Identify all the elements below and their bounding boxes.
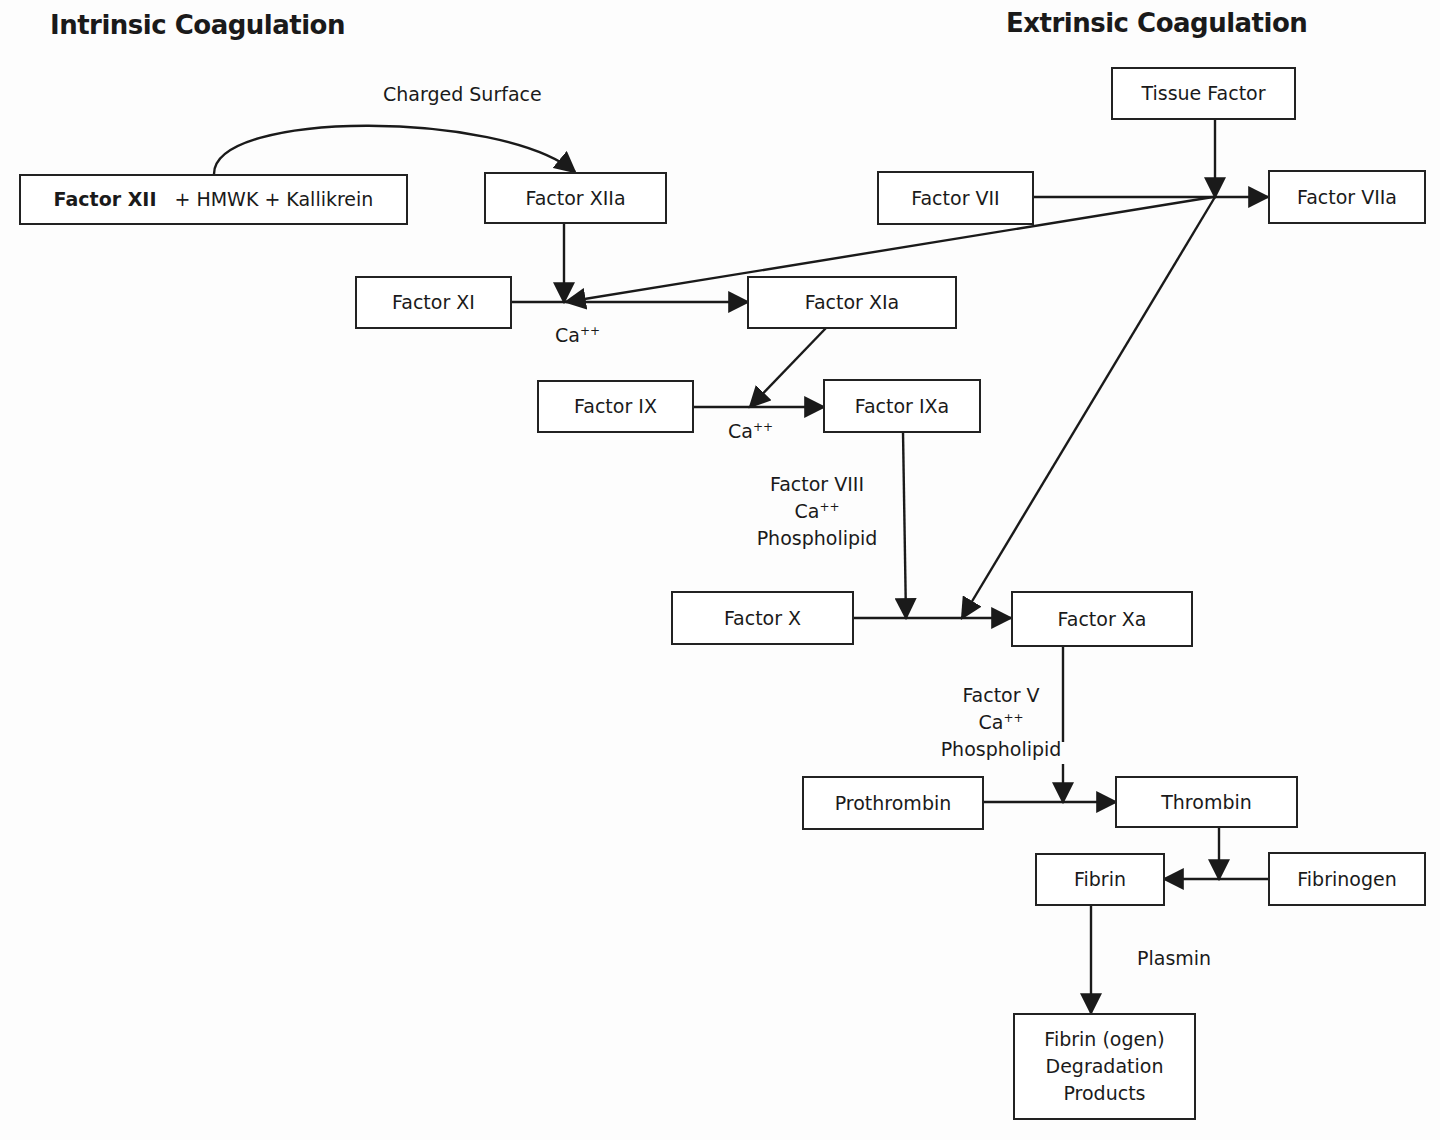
node-factor-ix: Factor IX [537,380,694,433]
arrow-xii-to-xiia [214,126,575,174]
factor-xii-cofactors-text: + HMWK + Kallikrein [174,186,373,213]
cofactors-label-prothrombin: Factor V Ca++ Phospholipid [936,682,1066,763]
edge-layer [0,0,1440,1140]
node-factor-xia: Factor XIa [747,276,957,329]
node-tissue-factor: Tissue Factor [1111,67,1296,120]
arrow-ixa-to-x-reaction [903,432,906,618]
cofactors-label-factor-x: Factor VIII Ca++ Phospholipid [752,471,882,552]
node-fibrinogen: Fibrinogen [1268,852,1426,906]
arrow-viia-to-x-reaction [962,197,1215,618]
node-factor-xa: Factor Xa [1011,591,1193,647]
intrinsic-title: Intrinsic Coagulation [50,10,345,40]
arrow-xia-to-ix-reaction [750,328,826,407]
ca-label-ix: Ca++ [728,418,773,445]
node-factor-viia: Factor VIIa [1268,170,1426,224]
charged-surface-label: Charged Surface [383,81,542,108]
node-fibrin: Fibrin [1035,853,1165,906]
node-factor-xi: Factor XI [355,276,512,329]
node-factor-x: Factor X [671,591,854,645]
node-factor-vii: Factor VII [877,171,1034,225]
node-factor-ixa: Factor IXa [823,379,981,433]
factor-xii-text: Factor XII [54,186,157,213]
node-factor-xii: Factor XII + HMWK + Kallikrein [19,174,408,225]
plasmin-label: Plasmin [1137,945,1211,972]
node-factor-xiia: Factor XIIa [484,172,667,224]
extrinsic-title: Extrinsic Coagulation [1006,8,1307,38]
node-thrombin: Thrombin [1115,776,1298,828]
ca-label-xi: Ca++ [555,322,600,349]
node-fibrin-degradation-products: Fibrin (ogen) Degradation Products [1013,1013,1196,1120]
node-prothrombin: Prothrombin [802,776,984,830]
